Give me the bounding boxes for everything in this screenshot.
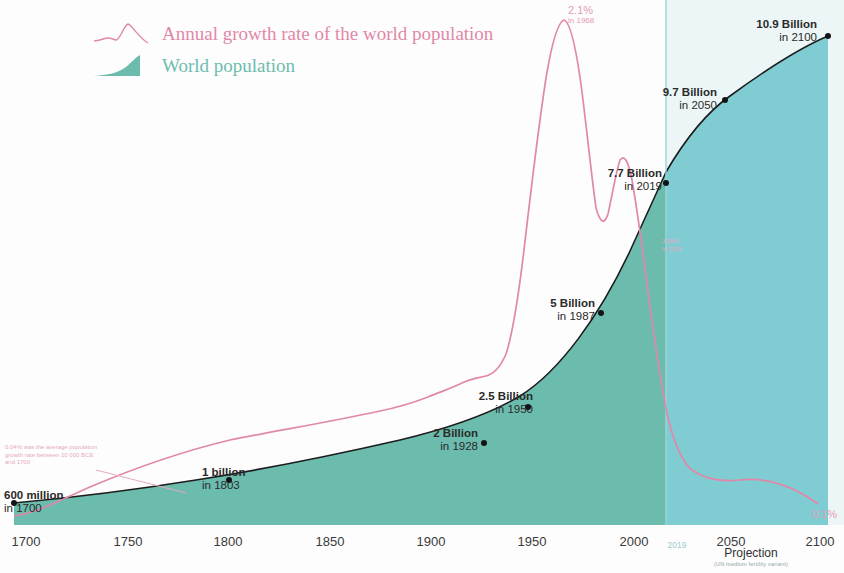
legend-item-growth-rate: Annual growth rate of the world populati… [92, 18, 493, 50]
chart-legend: Annual growth rate of the world populati… [92, 18, 493, 82]
annotation-peak-growth-rate: 2.1% in 1968 [568, 5, 594, 26]
annotation-2-billion: 2 Billion in 1928 [410, 427, 478, 452]
population-area-glyph [92, 53, 154, 79]
legend-label-population: World population [162, 55, 295, 77]
datapoint-dot-1950 [525, 404, 531, 410]
datapoint-dot-1700 [11, 500, 17, 506]
x-tick-1850: 1850 [316, 534, 345, 549]
datapoint-dot-2050 [722, 97, 728, 103]
x-tick-1900: 1900 [417, 534, 446, 549]
x-tick-1700: 1700 [12, 534, 41, 549]
annotation-5-billion: 5 Billion in 1987 [533, 297, 595, 322]
annotation-7point7-billion: 7.7 Billion in 2019 [600, 167, 662, 192]
datapoint-dot-1987 [598, 310, 604, 316]
annotation-10point9-billion: 10.9 Billion in 2100 [745, 18, 817, 43]
x-tick-2000: 2000 [620, 534, 649, 549]
x-tick-1800: 1800 [214, 534, 243, 549]
annotation-1-billion: 1 billion in 1803 [202, 466, 245, 491]
projection-title: Projection [676, 546, 826, 560]
chart-plot-area [0, 0, 844, 573]
world-population-chart: Annual growth rate of the world populati… [0, 0, 844, 573]
annotation-2point5-billion: 2.5 Billion in 1950 [455, 390, 533, 415]
annotation-growth-rate-2019: 1.08% in 2019 [662, 238, 682, 253]
legend-label-growth-rate: Annual growth rate of the world populati… [162, 23, 493, 45]
datapoint-dot-2100 [825, 33, 831, 39]
population-area-historical [14, 172, 666, 525]
projection-caption: Projection (UN medium fertility variant) [676, 546, 826, 567]
datapoint-dot-1928 [481, 440, 487, 446]
datapoint-dot-1803 [226, 477, 232, 483]
projection-subtitle: (UN medium fertility variant) [676, 561, 826, 567]
growth-rate-line-glyph [92, 21, 154, 47]
x-tick-1750: 1750 [114, 534, 143, 549]
annotation-growth-rate-2100: 0.1% [812, 509, 837, 520]
datapoint-dot-2019 [663, 180, 669, 186]
x-tick-1950: 1950 [518, 534, 547, 549]
annotation-historical-growth-note: 0.04% was the average population growth … [5, 444, 101, 467]
legend-item-population: World population [92, 50, 493, 82]
annotation-9point7-billion: 9.7 Billion in 2050 [655, 86, 717, 111]
